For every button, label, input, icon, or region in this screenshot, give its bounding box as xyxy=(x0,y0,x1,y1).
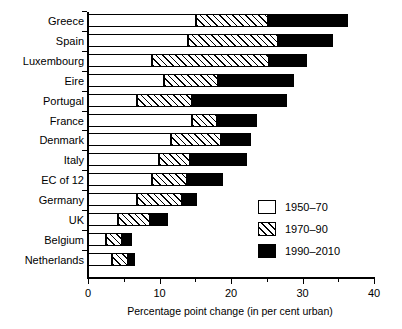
bar-segment xyxy=(137,193,181,206)
bar-row xyxy=(88,54,307,67)
chart-container: GreeceSpainLuxembourgEirePortugalFranceD… xyxy=(0,0,402,329)
bar-segment xyxy=(88,153,159,166)
y-axis-category-label: Germany xyxy=(39,194,84,206)
x-axis-minor-tick xyxy=(195,279,196,282)
bar-segment xyxy=(128,253,135,266)
bar-row xyxy=(88,213,168,226)
bar-segment xyxy=(268,14,348,27)
x-axis-tick xyxy=(160,279,161,284)
bar-row xyxy=(88,94,287,107)
bar-segment xyxy=(187,173,223,186)
y-axis-tick xyxy=(82,250,87,251)
chart-legend: 1950–701970–901990–2010 xyxy=(258,196,340,262)
y-axis-tick xyxy=(82,51,87,52)
bar-row xyxy=(88,173,223,186)
y-axis-category-label: Portugal xyxy=(43,95,84,107)
bar-segment xyxy=(88,213,118,226)
x-axis-title: Percentage point change (in per cent urb… xyxy=(0,305,402,317)
x-axis-minor-tick xyxy=(124,279,125,282)
legend-label: 1990–2010 xyxy=(285,245,340,257)
x-axis-tick xyxy=(374,279,375,284)
y-axis-category-label: Belgium xyxy=(44,234,84,246)
y-axis-category-label: Netherlands xyxy=(25,254,84,266)
bar-row xyxy=(88,74,294,87)
y-axis-tick xyxy=(82,91,87,92)
bar-segment xyxy=(221,133,251,146)
legend-swatch-hatched xyxy=(258,222,276,236)
x-axis-tick xyxy=(88,279,89,284)
bar-row xyxy=(88,14,348,27)
bar-segment xyxy=(88,173,152,186)
bar-segment xyxy=(159,153,190,166)
bar-segment xyxy=(88,74,164,87)
y-axis-tick xyxy=(82,11,87,12)
bar-segment xyxy=(152,173,188,186)
y-axis-tick xyxy=(82,71,87,72)
bar-segment xyxy=(192,114,218,127)
y-axis-category-label: Greece xyxy=(48,15,84,27)
bar-segment xyxy=(192,94,288,107)
y-axis-category-label: EC of 12 xyxy=(41,174,84,186)
bar-segment xyxy=(88,253,112,266)
bar-segment xyxy=(164,74,218,87)
y-axis-category-label: France xyxy=(50,115,84,127)
legend-item: 1990–2010 xyxy=(258,240,340,262)
y-axis-category-label: Eire xyxy=(64,75,84,87)
bar-row xyxy=(88,193,197,206)
y-axis-category-label: UK xyxy=(69,214,84,226)
bar-segment xyxy=(171,133,221,146)
x-axis-tick-label: 40 xyxy=(354,287,394,299)
x-axis-tick-label: 10 xyxy=(140,287,180,299)
bar-segment xyxy=(106,233,122,246)
y-axis-category-label: Denmark xyxy=(39,134,84,146)
bar-segment xyxy=(196,14,268,27)
bar-segment xyxy=(88,114,192,127)
bar-segment xyxy=(88,233,106,246)
bar-segment xyxy=(88,94,137,107)
bar-segment xyxy=(182,193,198,206)
y-axis-tick xyxy=(82,150,87,151)
bar-row xyxy=(88,253,135,266)
x-axis-tick xyxy=(303,279,304,284)
y-axis-category-label: Spain xyxy=(56,35,84,47)
y-axis-tick xyxy=(82,210,87,211)
y-axis-tick xyxy=(82,170,87,171)
bar-segment xyxy=(112,253,128,266)
legend-swatch-white xyxy=(258,200,276,214)
legend-item: 1970–90 xyxy=(258,218,340,240)
legend-label: 1950–70 xyxy=(285,201,328,213)
bar-row xyxy=(88,114,257,127)
bar-segment xyxy=(88,14,196,27)
y-axis-tick xyxy=(82,230,87,231)
y-axis-tick xyxy=(82,190,87,191)
y-axis-tick xyxy=(82,111,87,112)
bar-segment xyxy=(217,114,257,127)
bar-row xyxy=(88,34,333,47)
legend-label: 1970–90 xyxy=(285,223,328,235)
x-axis-minor-tick xyxy=(338,279,339,282)
bar-segment xyxy=(152,54,269,67)
y-axis-category-label: Italy xyxy=(64,154,84,166)
bar-segment xyxy=(269,54,307,67)
x-axis-minor-tick xyxy=(267,279,268,282)
bar-row xyxy=(88,233,132,246)
bar-segment xyxy=(122,233,133,246)
bar-row xyxy=(88,153,247,166)
x-axis-tick-label: 20 xyxy=(211,287,251,299)
y-axis-tick xyxy=(82,31,87,32)
y-axis-category-label: Luxembourg xyxy=(23,55,84,67)
x-axis-tick xyxy=(231,279,232,284)
bar-segment xyxy=(150,213,168,226)
bar-row xyxy=(88,133,251,146)
bar-segment xyxy=(88,193,137,206)
legend-swatch-black xyxy=(258,244,276,258)
plot-area: GreeceSpainLuxembourgEirePortugalFranceD… xyxy=(0,0,402,329)
bar-segment xyxy=(88,133,171,146)
x-axis-tick-label: 0 xyxy=(68,287,108,299)
bar-segment xyxy=(137,94,191,107)
bar-segment xyxy=(278,34,332,47)
bar-segment xyxy=(88,34,188,47)
bar-segment xyxy=(88,54,152,67)
legend-item: 1950–70 xyxy=(258,196,340,218)
bar-segment xyxy=(218,74,294,87)
